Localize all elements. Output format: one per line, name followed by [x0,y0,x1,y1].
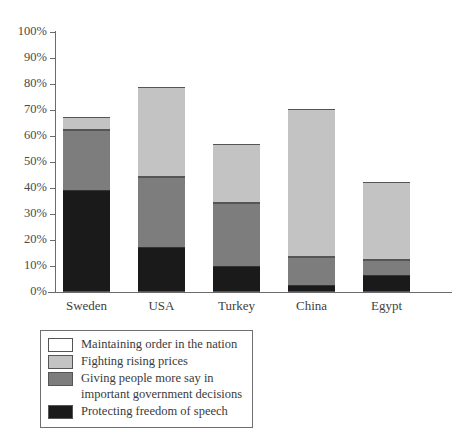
bar-egypt [363,32,410,292]
legend-item: Maintaining order in the nation [41,336,252,352]
bar-segment [288,109,335,257]
y-axis-tick-label: 70% [24,101,47,118]
bar-segment [288,285,335,292]
bar-usa [138,32,185,292]
y-axis-tick: 100% [0,32,56,33]
bar-segment [138,247,185,291]
y-axis-tick-label: 60% [24,127,47,144]
y-axis-tick: 70% [0,110,56,111]
y-axis-tick-label: 10% [24,257,47,274]
bar-segment [363,182,410,260]
x-axis-label-egypt: Egypt [342,296,432,315]
stacked-bar-chart: 0%10%20%30%40%50%60%70%80%90%100% Sweden… [0,0,454,320]
y-axis-tick-label: 90% [24,49,47,66]
legend-item: Fighting rising prices [41,353,252,369]
bar-segment [363,31,410,182]
bar-segment [63,130,110,190]
bar-segment [63,117,110,130]
bar-segment [138,31,185,87]
y-axis-tick: 50% [0,162,56,163]
y-axis-tick: 40% [0,188,56,189]
bar-segment [138,87,185,177]
y-axis-tick: 0% [0,292,56,293]
y-axis-tick-label: 100% [18,23,47,40]
y-axis-tick: 90% [0,58,56,59]
y-axis-tick-label: 50% [24,153,47,170]
y-axis-tick-label: 30% [24,205,47,222]
bar-segment [213,203,260,267]
y-axis-tick-mark [50,292,56,293]
legend-label: Fighting rising prices [81,353,188,369]
legend-swatch-light [48,355,73,369]
bar-sweden [63,32,110,292]
bar-segment [63,190,110,291]
y-axis-tick: 80% [0,84,56,85]
x-axis-line [48,292,452,293]
bar-china [288,32,335,292]
legend-label: Protecting freedom of speech [81,403,228,419]
legend-swatch-dark [48,372,73,386]
bar-segment [213,144,260,203]
bar-segment [363,260,410,276]
bar-turkey [213,32,260,292]
legend-swatch-black [48,405,73,419]
legend-label-line2: important government decisions [81,386,242,402]
y-axis-tick: 60% [0,136,56,137]
y-axis-tick: 10% [0,266,56,267]
legend-swatch-white [48,338,73,352]
legend-item: Giving people more say inimportant gover… [41,370,252,402]
bar-segment [288,257,335,284]
bar-segment [288,31,335,109]
y-axis-tick-label: 80% [24,75,47,92]
y-axis-tick-label: 40% [24,179,47,196]
legend-item: Protecting freedom of speech [41,403,252,419]
y-axis-tick: 30% [0,214,56,215]
bar-segment [63,31,110,117]
legend-label: Giving people more say inimportant gover… [81,370,242,402]
bar-segment [138,177,185,247]
bar-segment [363,275,410,291]
chart-legend: Maintaining order in the nationFighting … [40,330,253,428]
bar-segment [213,31,260,144]
legend-label: Maintaining order in the nation [81,336,237,352]
y-axis-tick: 20% [0,240,56,241]
plot-area [56,32,450,292]
y-axis-tick-label: 20% [24,231,47,248]
bar-segment [213,266,260,291]
